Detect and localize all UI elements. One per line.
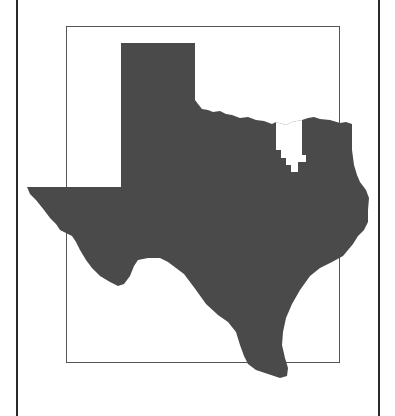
- texas-map: [0, 0, 395, 416]
- texas-state-shape: [27, 43, 369, 378]
